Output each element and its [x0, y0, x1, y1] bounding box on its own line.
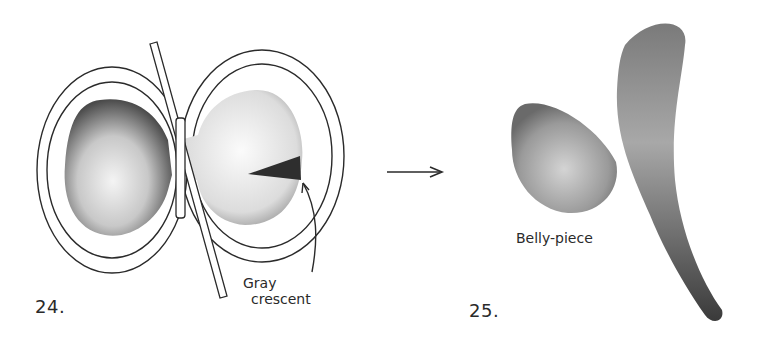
tadpole-drawing: [617, 24, 723, 321]
figure-illustration: [0, 0, 773, 348]
pointer-arrow: [303, 183, 316, 272]
belly-piece-drawing: [511, 103, 617, 213]
gray-crescent-label: Gray crescent: [243, 275, 311, 307]
figure-number-25: 25.: [469, 300, 499, 321]
belly-piece-label: Belly-piece: [516, 230, 593, 246]
figure-number-24: 24.: [35, 296, 65, 317]
right-arrow-icon: [387, 167, 442, 177]
